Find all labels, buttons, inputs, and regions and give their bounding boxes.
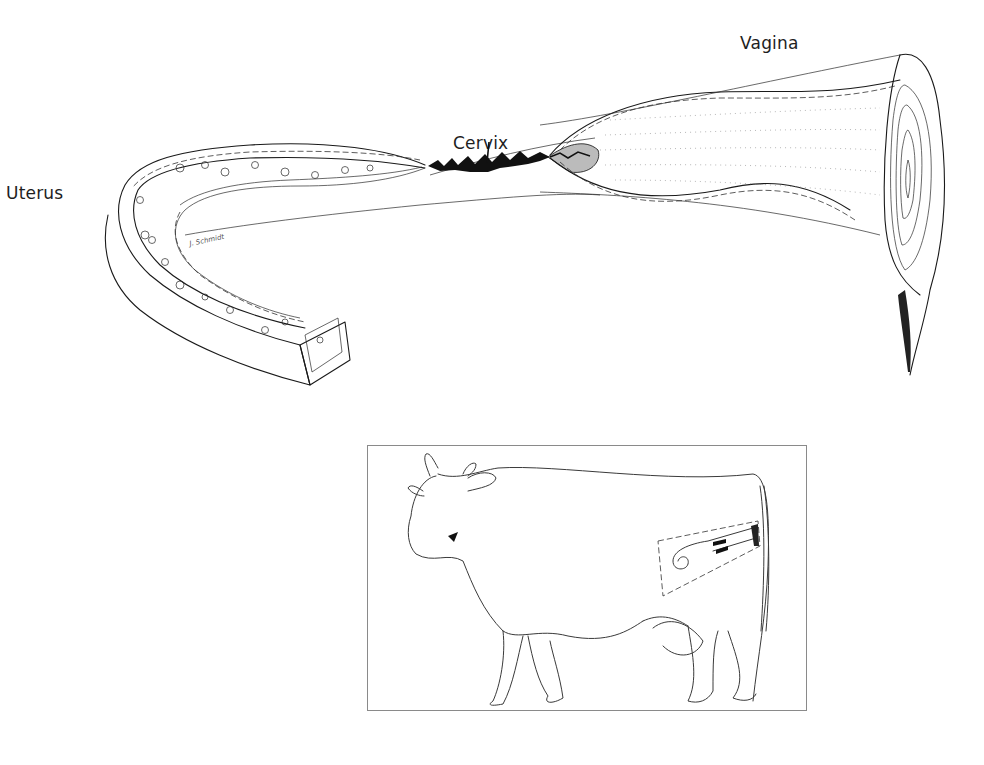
artist-signature: J. Schmidt <box>187 233 225 249</box>
reproductive-tract-illustration: J. Schmidt <box>0 0 984 440</box>
cervix <box>428 142 599 172</box>
cow-illustration <box>368 446 806 710</box>
uterine-glands <box>137 162 374 344</box>
inset-cow-diagram <box>367 445 807 711</box>
vagina <box>540 54 944 375</box>
cow-eye <box>448 532 458 542</box>
uterus-horn: J. Schmidt <box>105 138 600 385</box>
